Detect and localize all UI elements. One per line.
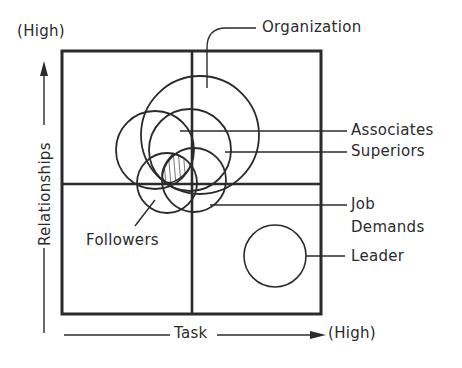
callout-lines: [135, 28, 347, 256]
organization-label: Organization: [262, 19, 362, 36]
job-demands-label-line1: Job: [351, 196, 375, 213]
leader-label: Leader: [351, 248, 404, 265]
leader-circle: [244, 225, 306, 287]
followers-label: Followers: [86, 232, 159, 249]
environment-circles: [116, 76, 306, 287]
quadrant-grid: [62, 51, 321, 314]
y-axis-label: Relationships: [36, 142, 54, 246]
x-axis-arrowhead-icon: [310, 331, 326, 339]
x-axis-label: Task: [174, 325, 208, 342]
organization-callout-line: [207, 28, 256, 88]
x-axis-high-label: (High): [328, 325, 376, 342]
superiors-label: Superiors: [351, 143, 425, 160]
y-axis-arrowhead-icon: [40, 61, 48, 76]
associates-label: Associates: [351, 122, 434, 139]
y-axis-high-label: (High): [17, 23, 65, 40]
job-demands-label-line2: Demands: [351, 219, 425, 236]
leadership-environment-diagram: [0, 0, 462, 368]
